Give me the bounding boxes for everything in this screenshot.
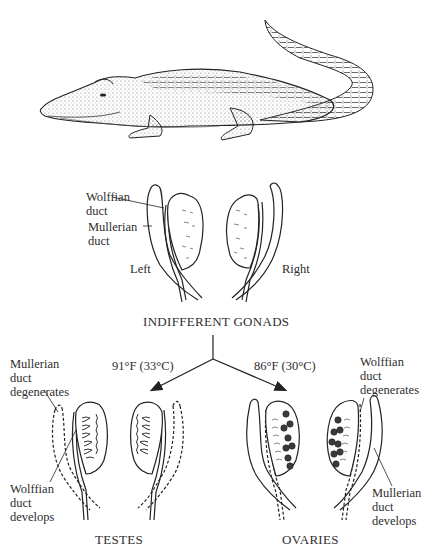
- label-wolffian-degenerates: Wolffian duct degenerates: [360, 355, 419, 397]
- label-mullerian-develops: Mullerian duct develops: [372, 486, 421, 528]
- label-temp-male: 91°F (33°C): [112, 359, 174, 373]
- title-ovaries: OVARIES: [282, 532, 339, 548]
- label-temp-female: 86°F (30°C): [254, 359, 316, 373]
- label-mullerian-degenerates: Mullerian duct degenerates: [10, 357, 69, 399]
- testes-ovaries-illustration: [0, 0, 438, 555]
- label-left: Left: [130, 262, 151, 276]
- label-mullerian-duct: Mullerian duct: [88, 220, 137, 248]
- label-right: Right: [282, 262, 310, 276]
- title-indifferent-gonads: INDIFFERENT GONADS: [143, 314, 289, 330]
- title-testes: TESTES: [95, 532, 143, 548]
- label-wolffian-develops: Wolffian duct develops: [10, 482, 54, 524]
- label-wolffian-duct: Wolffian duct: [86, 190, 130, 218]
